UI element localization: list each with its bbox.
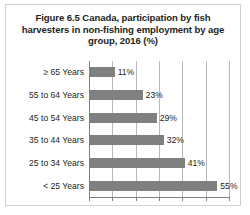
bar-track: 23% <box>89 84 240 107</box>
bar-row: < 25 Years55% <box>6 174 240 197</box>
bar-row: 45 to 54 Years29% <box>6 106 240 129</box>
x-axis-tick-60 <box>229 197 230 201</box>
bar-row: 25 to 34 Years41% <box>6 152 240 175</box>
bar-value-label: 32% <box>164 135 184 145</box>
bar-track: 41% <box>89 152 240 175</box>
bar <box>89 158 185 168</box>
category-label: 35 to 44 Years <box>6 135 89 145</box>
bar-value-label: 55% <box>217 181 237 191</box>
category-label: 25 to 34 Years <box>6 158 89 168</box>
bar-value-label: 41% <box>185 158 205 168</box>
bar-track: 55% <box>89 174 240 197</box>
bar-row: ≥ 65 Years11% <box>6 61 240 84</box>
bar <box>89 181 217 191</box>
category-label: 45 to 54 Years <box>6 113 89 123</box>
bar <box>89 90 143 100</box>
x-axis-line <box>89 197 229 198</box>
bar <box>89 67 115 77</box>
bar <box>89 113 157 123</box>
bar-track: 29% <box>89 106 240 129</box>
chart-title: Figure 6.5 Canada, participation by fish… <box>6 5 240 47</box>
bar-value-label: 29% <box>157 113 177 123</box>
bar-value-label: 23% <box>143 90 163 100</box>
bar-row: 55 to 64 Years23% <box>6 84 240 107</box>
bar <box>89 135 164 145</box>
bar-track: 11% <box>89 61 240 84</box>
bar-value-label: 11% <box>115 67 135 77</box>
category-label: ≥ 65 Years <box>6 67 89 77</box>
figure-container: Figure 6.5 Canada, participation by fish… <box>5 4 241 206</box>
bar-rows-group: ≥ 65 Years11%55 to 64 Years23%45 to 54 Y… <box>6 61 240 197</box>
category-label: 55 to 64 Years <box>6 90 89 100</box>
bar-row: 35 to 44 Years32% <box>6 129 240 152</box>
chart-plot-area: ≥ 65 Years11%55 to 64 Years23%45 to 54 Y… <box>6 57 240 205</box>
bar-track: 32% <box>89 129 240 152</box>
category-label: < 25 Years <box>6 181 89 191</box>
